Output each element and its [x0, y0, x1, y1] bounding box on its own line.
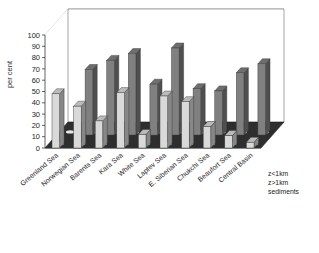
- bar: [74, 101, 86, 148]
- bar: [52, 89, 64, 148]
- legend-label: sediments: [268, 188, 300, 195]
- legend-label: z>1km: [268, 179, 289, 186]
- bar: [138, 129, 150, 148]
- bar: [95, 116, 107, 148]
- y-tick-label: 20: [32, 121, 40, 130]
- bar: [215, 86, 227, 135]
- y-tick-label: 90: [32, 42, 40, 51]
- bar: [128, 49, 140, 135]
- legend-label: z<1km: [268, 170, 289, 177]
- bar: [117, 88, 129, 148]
- chart-container: 30 Years per cent 0102030405060708090100…: [0, 0, 319, 253]
- y-tick-label: 60: [32, 76, 40, 85]
- y-tick-label: 40: [32, 98, 40, 107]
- y-tick-label: 80: [32, 53, 40, 62]
- bar: [236, 68, 248, 135]
- chart-plot-area: 0102030405060708090100 Greenland SeaNorw…: [0, 0, 319, 253]
- bar: [258, 59, 270, 135]
- y-tick-label: 100: [27, 31, 40, 40]
- bar: [182, 97, 194, 148]
- y-tick-label: 30: [32, 110, 40, 119]
- y-tick-label: 10: [32, 132, 40, 141]
- x-axis-labels: Greenland SeaNorwegian SeaBarents SeaKar…: [19, 151, 254, 188]
- y-tick-label: 70: [32, 65, 40, 74]
- legend: z<1kmz>1kmsediments: [268, 170, 300, 195]
- y-tick-label: 0: [36, 144, 40, 153]
- bar: [203, 122, 215, 149]
- y-tick-label: 50: [32, 87, 40, 96]
- bar: [160, 91, 172, 148]
